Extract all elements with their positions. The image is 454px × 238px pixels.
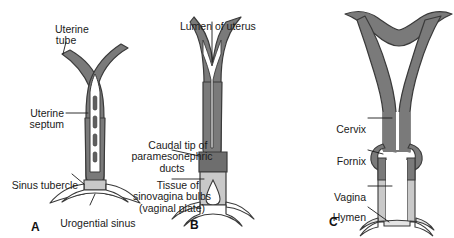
panel-letter-b: B xyxy=(190,218,199,232)
panel-a-sinus-tubercle xyxy=(84,180,106,190)
panel-c-vaginal-lumen xyxy=(386,160,407,222)
panel-letter-c-text: C xyxy=(329,215,338,229)
panel-letter-a: A xyxy=(31,220,40,234)
panel-c-cervical-canal xyxy=(396,112,399,150)
panel-c-vagina-upper-left xyxy=(378,158,386,180)
label-fornix: Fornix xyxy=(300,144,366,179)
leader-urogenital-sinus xyxy=(90,194,95,205)
label-cervix-text: Cervix xyxy=(336,123,366,135)
label-sinovaginal-bulbs-text: Tissue of sinovagina bulbs (vaginal plat… xyxy=(133,179,211,214)
panel-c-vagina-upper-right xyxy=(407,158,415,180)
label-uterine-septum-text: Uterine septum xyxy=(30,107,64,131)
label-uterine-tube: Uterine tube xyxy=(34,12,98,58)
label-sinus-tubercle: Sinus tubercle xyxy=(0,168,72,203)
label-urogenital-sinus: Urogential sinus xyxy=(44,206,140,238)
panel-letter-a-text: A xyxy=(31,220,40,234)
label-uterine-septum: Uterine septum xyxy=(2,96,64,142)
label-sinus-tubercle-text: Sinus tubercle xyxy=(12,179,79,191)
label-lumen-of-uterus: Lumen of uterus xyxy=(162,9,262,44)
label-fornix-text: Fornix xyxy=(337,155,366,167)
anatomy-figure: Uterine tube Uterine septum Sinus tuberc… xyxy=(0,0,454,238)
label-sinovaginal-bulbs: Tissue of sinovagina bulbs (vaginal plat… xyxy=(128,168,216,226)
label-lumen-of-uterus-text: Lumen of uterus xyxy=(180,20,256,32)
label-urogenital-sinus-text: Urogential sinus xyxy=(60,217,135,229)
label-cervix: Cervix xyxy=(300,112,366,147)
label-uterine-tube-text: Uterine tube xyxy=(55,23,89,47)
panel-letter-c: C xyxy=(329,215,338,229)
panel-letter-b-text: B xyxy=(190,218,199,232)
